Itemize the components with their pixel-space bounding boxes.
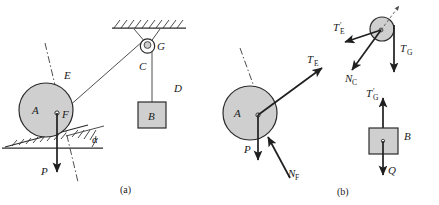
slope-extension — [66, 126, 104, 136]
block-free-body: T ′ G B Q — [366, 87, 411, 176]
label-force-TE: T E — [307, 53, 319, 68]
label-block-B: B — [148, 110, 155, 122]
label-center-F: F — [61, 108, 69, 120]
svg-text:C: C — [352, 78, 357, 87]
label-rope-E: E — [63, 69, 71, 81]
cylinder-free-body: A T E P N F — [223, 48, 322, 182]
label-force-NC: N C — [344, 72, 357, 87]
rope-E — [72, 41, 144, 104]
svg-text:G: G — [407, 48, 413, 57]
label-cylinder-A: A — [31, 104, 39, 116]
label-force-P: P — [243, 143, 251, 155]
label-force-Q: Q — [388, 164, 396, 176]
svg-text:T: T — [307, 53, 314, 65]
panel-a-caption: (a) — [120, 184, 131, 196]
label-pulley-G: G — [157, 40, 165, 52]
label-angle-alpha: α — [92, 133, 98, 145]
svg-text:E: E — [340, 27, 345, 36]
force-NC-arrow — [352, 30, 381, 70]
svg-text:F: F — [295, 173, 299, 182]
label-rope-D: D — [173, 82, 182, 94]
svg-text:T: T — [400, 42, 407, 54]
label-force-NF: N F — [287, 167, 299, 182]
svg-text:G: G — [373, 93, 379, 102]
figure-canvas: G E C D B — [0, 0, 439, 205]
cylinder-body — [223, 86, 277, 140]
svg-text:T: T — [333, 21, 340, 33]
force-TE-arrow — [258, 68, 322, 115]
label-force-TE-prime: T ′ E — [333, 21, 345, 36]
label-weight-P: P — [40, 165, 48, 177]
panel-b-caption: (b) — [337, 186, 349, 198]
label-force-TG: T G — [400, 42, 413, 57]
panel-b: A T E P N F — [223, 6, 413, 198]
pulley-free-body: T ′ E N C T G — [333, 6, 413, 87]
svg-text:T: T — [366, 87, 373, 99]
physics-figure: G E C D B — [0, 0, 439, 205]
label-force-TG-prime: T ′ G — [366, 87, 379, 102]
label-rope-C: C — [139, 60, 147, 72]
force-NF-arrow — [268, 137, 290, 178]
panel-a: G E C D B — [2, 20, 186, 196]
svg-text:E: E — [314, 59, 319, 68]
label-block-B-fb: B — [404, 130, 411, 142]
hatched-ceiling — [112, 20, 186, 28]
label-cylinder-A-fb: A — [233, 107, 241, 119]
